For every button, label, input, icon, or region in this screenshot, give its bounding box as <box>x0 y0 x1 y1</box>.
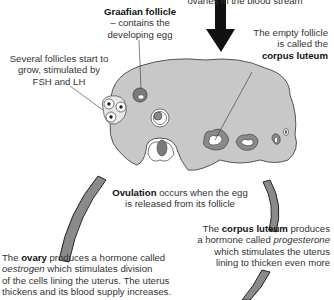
graafian-title: Graafian follicle <box>104 6 176 17</box>
cl-pre: The <box>203 223 222 234</box>
ov-post: produces a hormone called <box>47 252 165 263</box>
corpus-luteum-1 <box>204 129 229 150</box>
ovulation-rest: occurs when the egg <box>157 187 248 198</box>
empty-bold: corpus luteum <box>262 50 328 61</box>
cl-line2-pre: a hormone called <box>197 234 273 245</box>
label-ovulation: Ovulation occurs when the egg is release… <box>95 187 265 210</box>
ov-line4: thickens and its blood supply increases. <box>2 286 171 297</box>
graafian-follicle <box>133 88 147 102</box>
label-empty-follicle: The empty follicle is called the corpus … <box>220 27 328 61</box>
ovary-shape <box>110 59 296 170</box>
cl-line3: which stimulates the uterus <box>214 246 330 257</box>
corpus-luteum-4 <box>284 129 289 136</box>
ov-pre: The <box>2 252 21 263</box>
ov-line2-rest: which stimulates division <box>45 263 153 274</box>
cycle-arc-right-lower <box>242 270 270 300</box>
cl-line4: lining to thicken even more <box>216 257 330 268</box>
ov-line3: of the cells lining the uterus. The uter… <box>2 275 169 286</box>
cl-line2-italic: progesterone <box>273 234 330 245</box>
label-graafian-follicle: Graafian follicle – contains the develop… <box>85 6 195 40</box>
several-line2: grow, stimulated by <box>18 64 100 75</box>
empty-line1: The empty follicle <box>253 27 328 38</box>
empty-line2: is called the <box>277 38 328 49</box>
label-several-follicles: Several follicles start to grow, stimula… <box>0 53 118 87</box>
ov-bold: ovary <box>21 252 47 263</box>
graafian-line2: developing egg <box>107 29 172 40</box>
ov-line2-italic: oestrogen <box>2 263 45 274</box>
ovulation-bold: Ovulation <box>112 187 156 198</box>
several-line3: FSH and LH <box>33 76 86 87</box>
graafian-line1: – contains the <box>110 17 170 28</box>
leader-several <box>70 86 103 110</box>
top-cut-text: ovaries in the blood stream <box>187 0 302 6</box>
label-ovary-hormone: The ovary produces a hormone called oest… <box>2 252 202 297</box>
several-line1: Several follicles start to <box>10 53 109 64</box>
cl-post: produces <box>288 223 330 234</box>
maturing-follicle <box>151 109 169 127</box>
cl-bold: corpus luteum <box>222 223 288 234</box>
ovulation-line2: is released from its follicle <box>125 198 235 209</box>
